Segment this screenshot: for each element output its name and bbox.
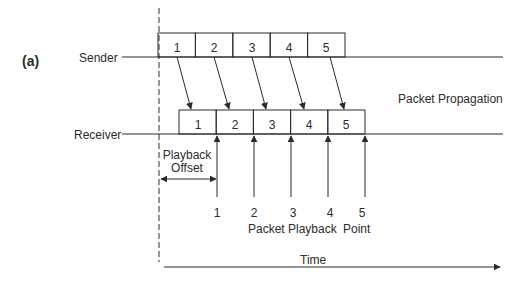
playback-label: Packet Playback bbox=[248, 222, 338, 236]
receiver-packet-number: 5 bbox=[343, 118, 350, 132]
playback-diagram: (a) Sender 1 2 3 4 5 Packet Propagation … bbox=[0, 0, 531, 287]
sender-packets: 1 2 3 4 5 bbox=[158, 33, 345, 57]
sender-packet-number: 2 bbox=[211, 41, 218, 55]
receiver-packets: 1 2 3 4 5 bbox=[179, 110, 365, 134]
receiver-packet-number: 4 bbox=[306, 118, 313, 132]
propagation-arrow bbox=[177, 57, 191, 109]
sender-packet-number: 5 bbox=[323, 41, 330, 55]
playback-point-number: 2 bbox=[251, 206, 258, 220]
playback-point-number: 4 bbox=[327, 206, 334, 220]
time-label: Time bbox=[300, 253, 327, 267]
propagation-arrow bbox=[289, 57, 304, 109]
playback-point-label: Point bbox=[343, 222, 371, 236]
playback-point-number: 1 bbox=[214, 206, 221, 220]
playback-point-arrows bbox=[217, 136, 365, 197]
receiver-label: Receiver bbox=[74, 128, 121, 142]
receiver-packet-number: 2 bbox=[232, 118, 239, 132]
propagation-arrows bbox=[177, 57, 344, 109]
sender-label: Sender bbox=[79, 51, 118, 65]
offset-label-line2: Offset bbox=[171, 161, 203, 175]
propagation-arrow bbox=[252, 57, 266, 109]
receiver-packet-number: 1 bbox=[195, 118, 202, 132]
propagation-arrow bbox=[214, 57, 229, 109]
propagation-arrow bbox=[330, 57, 344, 109]
propagation-label: Packet Propagation bbox=[398, 92, 503, 106]
receiver-packet-number: 3 bbox=[269, 118, 276, 132]
sender-packet-number: 3 bbox=[249, 41, 256, 55]
sender-packet-number: 1 bbox=[174, 41, 181, 55]
offset-label-line1: Playback bbox=[163, 148, 213, 162]
panel-label: (a) bbox=[22, 53, 39, 69]
playback-point-number: 3 bbox=[290, 206, 297, 220]
sender-packet-number: 4 bbox=[286, 41, 293, 55]
playback-point-number: 5 bbox=[359, 206, 366, 220]
